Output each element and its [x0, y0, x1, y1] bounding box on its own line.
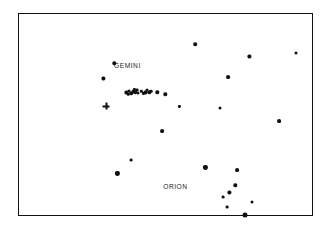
- star-marker: [115, 171, 119, 175]
- star-chart-figure: GEMINIORION: [0, 0, 327, 232]
- star-marker: [137, 92, 140, 95]
- star-marker: [243, 213, 248, 218]
- star-marker: [226, 206, 229, 209]
- star-marker: [248, 55, 251, 58]
- star-marker: [164, 93, 167, 96]
- star-marker: [142, 92, 144, 94]
- star-field: GEMINIORION: [19, 14, 312, 215]
- star-marker: [178, 105, 180, 107]
- star-marker: [203, 165, 207, 169]
- star-marker: [160, 129, 164, 133]
- constellation-label-orion: ORION: [163, 183, 187, 190]
- star-marker: [277, 119, 281, 123]
- star-marker: [219, 107, 222, 110]
- star-marker: [102, 77, 105, 80]
- star-marker: [130, 159, 133, 162]
- star-marker: [156, 91, 159, 94]
- star-marker: [226, 75, 230, 79]
- star-marker: [222, 196, 225, 199]
- cross-vertical-bar: [106, 103, 108, 110]
- star-marker: [295, 52, 298, 55]
- cross-marker-icon: [103, 103, 110, 110]
- star-marker: [251, 201, 254, 204]
- star-marker: [234, 184, 237, 187]
- star-marker: [194, 43, 198, 47]
- star-marker: [150, 90, 153, 93]
- star-marker: [228, 191, 231, 194]
- star-marker: [235, 168, 239, 172]
- constellation-label-gemini: GEMINI: [114, 62, 141, 69]
- chart-border: GEMINIORION: [18, 13, 313, 216]
